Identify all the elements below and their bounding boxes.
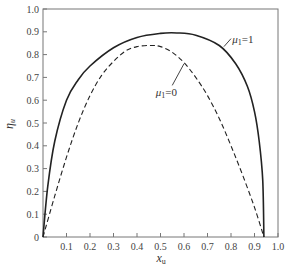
y-tick-label: 1.0 <box>27 4 40 15</box>
chart: 00.10.20.30.40.50.60.70.80.91.00.10.20.3… <box>0 0 293 266</box>
leader-mu1-1 <box>224 39 231 47</box>
x-tick-label: 0.1 <box>60 241 73 252</box>
x-tick-label: 1.0 <box>272 241 285 252</box>
annotation-mu1-1: μ1=1 <box>231 33 253 47</box>
leader-mu1-0 <box>172 64 184 86</box>
x-tick-label: 0.4 <box>131 241 144 252</box>
x-tick-label: 0.8 <box>225 241 238 252</box>
y-tick-label: 0.9 <box>27 26 40 37</box>
series-mu1-0 <box>43 45 264 237</box>
x-axis-label: xu <box>156 251 166 266</box>
series-mu1-1 <box>43 33 264 237</box>
y-tick-label: 0 <box>34 232 39 243</box>
y-tick-label: 0.1 <box>27 209 40 220</box>
y-tick-label: 0.3 <box>27 163 40 174</box>
y-axis-label: ηu <box>2 119 17 129</box>
y-tick-label: 0.8 <box>27 49 40 60</box>
y-tick-label: 0.2 <box>27 186 40 197</box>
y-tick-label: 0.7 <box>27 72 40 83</box>
y-tick-label: 0.6 <box>27 95 40 106</box>
x-tick-label: 0.2 <box>84 241 97 252</box>
annotation-mu1-0: μ1=0 <box>155 86 178 100</box>
x-tick-label: 0.9 <box>248 241 261 252</box>
x-tick-label: 0.6 <box>178 241 191 252</box>
y-tick-label: 0.4 <box>27 140 40 151</box>
y-tick-label: 0.5 <box>27 118 40 129</box>
x-tick-label: 0.3 <box>107 241 120 252</box>
x-tick-label: 0.7 <box>201 241 214 252</box>
